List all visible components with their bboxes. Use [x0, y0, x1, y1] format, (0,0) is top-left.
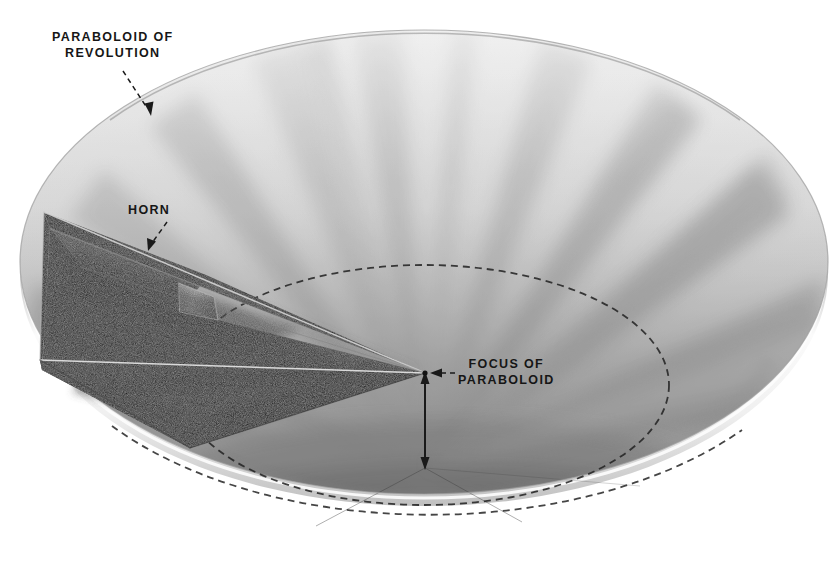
- label-paraboloid-of-revolution: PARABOLOID OF REVOLUTION: [52, 30, 173, 61]
- label-horn: HORN: [128, 203, 170, 219]
- focus-point: [422, 370, 427, 375]
- label-focus-of-paraboloid: FOCUS OF PARABOLOID: [458, 357, 555, 388]
- paraboloid-antenna-figure: PARABOLOID OF REVOLUTION HORN FOCUS OF P…: [0, 0, 839, 573]
- antenna-illustration: [0, 0, 839, 573]
